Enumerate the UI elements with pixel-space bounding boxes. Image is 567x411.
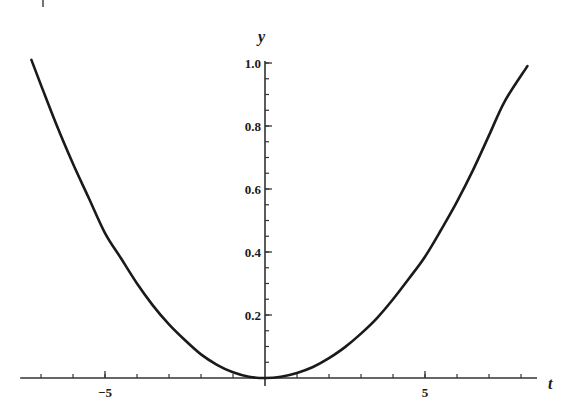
y-axis-label: y bbox=[256, 28, 266, 46]
y-axis: 0.20.40.60.81.0 bbox=[245, 56, 272, 386]
x-tick-label: 5 bbox=[422, 385, 429, 400]
y-tick-label: 0.2 bbox=[245, 308, 261, 323]
chart-container: −55 0.20.40.60.81.0 t y bbox=[0, 0, 567, 411]
x-axis-label: t bbox=[548, 375, 553, 392]
y-tick-label: 0.6 bbox=[245, 182, 262, 197]
x-axis: −55 bbox=[20, 371, 537, 400]
data-curve bbox=[31, 60, 527, 378]
y-tick-label: 0.4 bbox=[245, 245, 262, 260]
y-tick-label: 1.0 bbox=[245, 56, 261, 71]
x-tick-label: −5 bbox=[98, 385, 112, 400]
y-tick-label: 0.8 bbox=[245, 119, 262, 134]
parabola-plot: −55 0.20.40.60.81.0 t y bbox=[0, 0, 567, 411]
